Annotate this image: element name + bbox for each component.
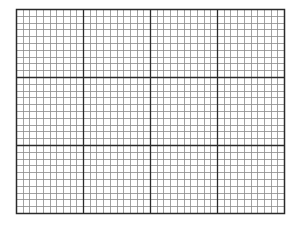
graph-paper-grid xyxy=(0,0,299,227)
